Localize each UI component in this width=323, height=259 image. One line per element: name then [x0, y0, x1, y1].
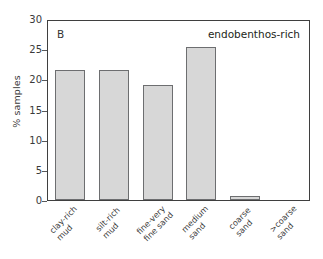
bar[interactable] [143, 85, 173, 200]
bar[interactable] [99, 70, 129, 200]
bar[interactable] [55, 70, 85, 200]
x-tick-label-text: >coarsesand [268, 204, 306, 242]
x-tick-label-text: silt-richmud [94, 205, 129, 240]
y-tick-label: 30 [22, 15, 42, 25]
y-tick-label: 5 [22, 166, 42, 176]
x-tick-label-text: mediumsand [180, 204, 217, 241]
bar[interactable] [186, 47, 216, 200]
y-axis-label: % samples [11, 52, 22, 152]
y-tick-mark [42, 201, 47, 202]
x-axis-tick-labels: clay-richmudsilt-richmudfine-veryfine sa… [47, 203, 310, 259]
x-tick-label-text: clay-richmud [48, 204, 86, 242]
y-axis-tick-labels: 051015202530 [22, 0, 42, 259]
plot-frame: B endobenthos-rich [47, 20, 310, 201]
y-tick-label: 10 [22, 136, 42, 146]
bar[interactable] [230, 196, 260, 200]
y-tick-label: 15 [22, 106, 42, 116]
chart-figure: % samples 051015202530 B endobenthos-ric… [0, 0, 323, 259]
x-tick-label-text: coarsesand [227, 206, 260, 239]
y-tick-label: 25 [22, 45, 42, 55]
y-tick-label: 0 [22, 196, 42, 206]
y-tick-label: 20 [22, 75, 42, 85]
plot-area [48, 21, 309, 200]
x-tick-label-text: fine-veryfine sand [135, 203, 175, 243]
